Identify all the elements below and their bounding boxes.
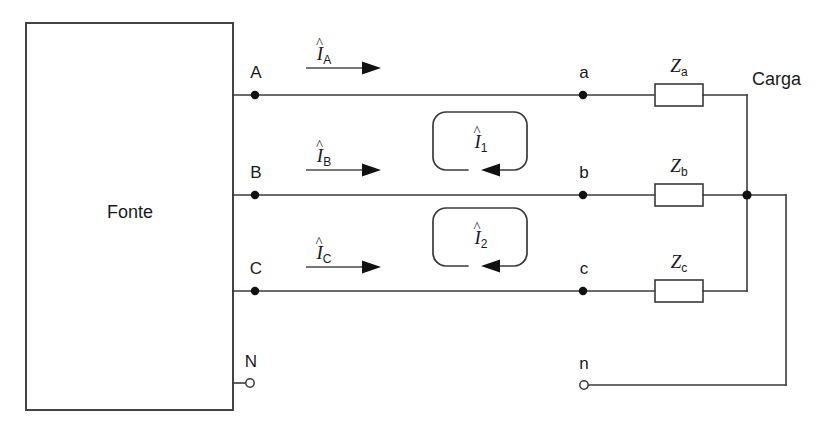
mesh-loop-arrow-head-I1 xyxy=(481,164,500,177)
node-dot-a xyxy=(579,91,587,99)
current-label-IB: ^IB xyxy=(317,146,331,165)
impedance-box-zc xyxy=(655,280,703,302)
hat-accent-I1: ^ xyxy=(474,124,481,139)
mesh-current-subscript-I2: 2 xyxy=(481,237,488,251)
terminal-label-B: B xyxy=(250,164,261,181)
terminal-label-b: b xyxy=(579,164,588,181)
node-dot-C xyxy=(251,287,259,295)
node-dot-c xyxy=(579,287,587,295)
current-label-IC: ^IC xyxy=(317,243,332,262)
mesh-current-label-I1: ^I1 xyxy=(474,132,487,151)
source-block-label: Fonte xyxy=(107,203,153,221)
impedance-symbol-za: Z xyxy=(670,55,681,76)
terminal-label-a: a xyxy=(579,64,588,81)
impedance-label-zc: Zc xyxy=(671,252,688,271)
open-terminal-n xyxy=(580,381,588,389)
node-dot-junction-b-return xyxy=(742,190,751,199)
current-arrow-head-IB xyxy=(362,164,381,177)
impedance-symbol-zb: Z xyxy=(670,155,681,176)
mesh-loop-arrow-head-I2 xyxy=(481,260,500,273)
current-subscript-IA: A xyxy=(323,53,331,67)
impedance-subscript-zc: c xyxy=(681,261,687,275)
node-dot-B xyxy=(251,191,259,199)
impedance-subscript-zb: b xyxy=(681,165,688,179)
current-subscript-IB: B xyxy=(323,155,331,169)
impedance-box-zb xyxy=(655,184,703,206)
impedance-box-za xyxy=(655,84,703,106)
terminal-label-N: N xyxy=(245,353,257,370)
current-label-IA: ^IA xyxy=(317,44,331,63)
mesh-current-subscript-I1: 1 xyxy=(481,141,488,155)
impedance-label-zb: Zb xyxy=(670,156,687,175)
impedance-symbol-zc: Z xyxy=(671,251,682,272)
hat-accent-I2: ^ xyxy=(474,220,481,235)
open-terminal-N xyxy=(246,379,254,387)
hat-accent-IA: ^ xyxy=(316,36,323,51)
hat-accent-IC: ^ xyxy=(316,235,323,250)
load-region-label: Carga xyxy=(752,70,801,88)
node-dot-b xyxy=(579,191,587,199)
current-arrow-head-IA xyxy=(362,62,381,75)
impedance-label-za: Za xyxy=(670,56,687,75)
node-dot-A xyxy=(251,91,259,99)
hat-accent-IB: ^ xyxy=(316,138,323,153)
circuit-diagram-canvas: Fonte Carga A B C N a b c n Za Zb Zc ^IA… xyxy=(0,0,833,428)
impedance-subscript-za: a xyxy=(681,65,688,79)
terminal-label-n: n xyxy=(579,355,588,372)
current-arrow-head-IC xyxy=(362,261,381,274)
terminal-label-A: A xyxy=(250,64,261,81)
mesh-current-label-I2: ^I2 xyxy=(474,228,487,247)
current-subscript-IC: C xyxy=(323,252,332,266)
terminal-label-c: c xyxy=(580,260,589,277)
terminal-label-C: C xyxy=(250,260,262,277)
